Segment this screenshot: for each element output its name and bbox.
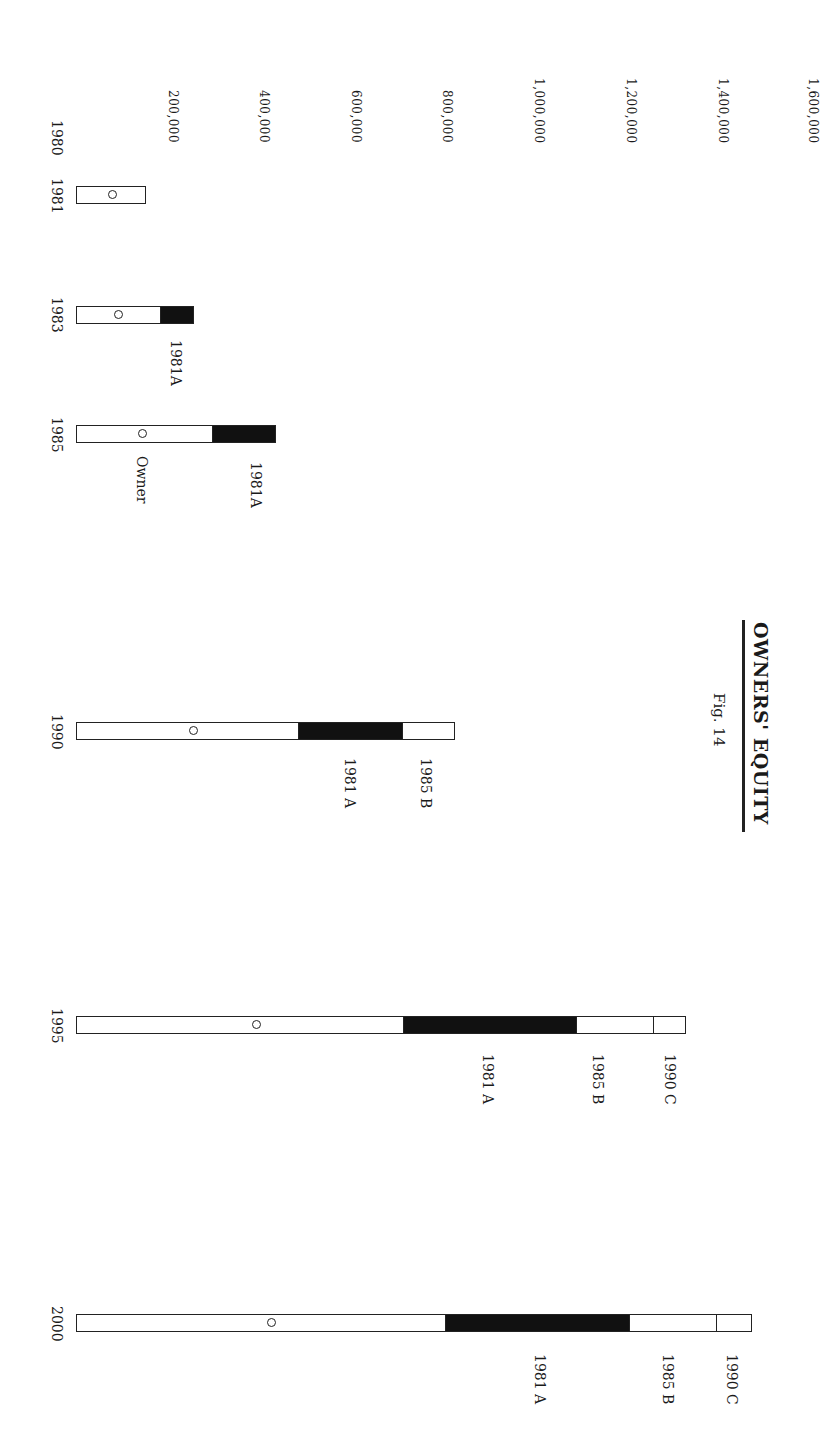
owner-marker-icon bbox=[267, 1318, 276, 1327]
year-label: 1981 bbox=[49, 178, 65, 214]
segment-1985b bbox=[629, 1314, 717, 1332]
segment-1981a bbox=[160, 306, 194, 324]
segment-label: 1981 A bbox=[342, 758, 358, 808]
tick-label: 1,000,000 bbox=[532, 78, 546, 144]
segment-owner bbox=[76, 1314, 446, 1332]
segment-label: 1985 B bbox=[660, 1354, 676, 1404]
segment-1990c bbox=[716, 1314, 752, 1332]
segment-label: 1985 B bbox=[418, 758, 434, 808]
tick-label: 200,000 bbox=[166, 90, 180, 143]
segment-1985b bbox=[576, 1016, 654, 1034]
segment-1981a bbox=[403, 1016, 577, 1034]
segment-label: 1990 C bbox=[724, 1354, 740, 1405]
segment-label: 1981A bbox=[248, 462, 264, 508]
owner-label: Owner bbox=[134, 456, 150, 503]
segment-label: 1981 A bbox=[532, 1354, 548, 1404]
bar-1990 bbox=[76, 722, 455, 740]
bar-1995 bbox=[76, 1016, 686, 1034]
tick-label: 1,400,000 bbox=[716, 78, 730, 144]
year-label: 1980 bbox=[49, 120, 65, 156]
segment-1990c bbox=[653, 1016, 686, 1034]
segment-owner bbox=[76, 722, 299, 740]
segment-label: 1985 B bbox=[590, 1054, 606, 1104]
year-label: 2000 bbox=[49, 1306, 65, 1342]
bar-1983 bbox=[76, 306, 194, 324]
segment-label: 1981A bbox=[168, 340, 184, 386]
owner-marker-icon bbox=[252, 1020, 261, 1029]
year-label: 1990 bbox=[49, 714, 65, 750]
segment-owner bbox=[76, 1016, 404, 1034]
owner-marker-icon bbox=[108, 190, 117, 199]
bar-2000 bbox=[76, 1314, 752, 1332]
segment-1981a bbox=[212, 425, 276, 443]
year-label: 1995 bbox=[49, 1008, 65, 1044]
year-label: 1985 bbox=[49, 417, 65, 453]
tick-label: 600,000 bbox=[349, 90, 363, 143]
owner-marker-icon bbox=[114, 310, 123, 319]
chart-subtitle: Fig. 14 bbox=[710, 693, 728, 746]
tick-label: 800,000 bbox=[440, 90, 454, 143]
year-label: 1983 bbox=[49, 297, 65, 333]
title-underline bbox=[742, 620, 745, 832]
segment-1985b bbox=[402, 722, 455, 740]
owner-marker-icon bbox=[138, 429, 147, 438]
tick-label: 1,600,000 bbox=[806, 78, 820, 144]
tick-label: 1,200,000 bbox=[624, 78, 638, 144]
segment-label: 1981 A bbox=[480, 1054, 496, 1104]
segment-label: 1990 C bbox=[662, 1054, 678, 1105]
owner-marker-icon bbox=[189, 726, 198, 735]
segment-1981a bbox=[445, 1314, 630, 1332]
segment-1981a bbox=[298, 722, 403, 740]
bar-1985 bbox=[76, 425, 276, 443]
chart-title: OWNERS' EQUITY bbox=[750, 622, 772, 825]
bar-1981 bbox=[76, 186, 146, 204]
tick-label: 400,000 bbox=[257, 90, 271, 143]
